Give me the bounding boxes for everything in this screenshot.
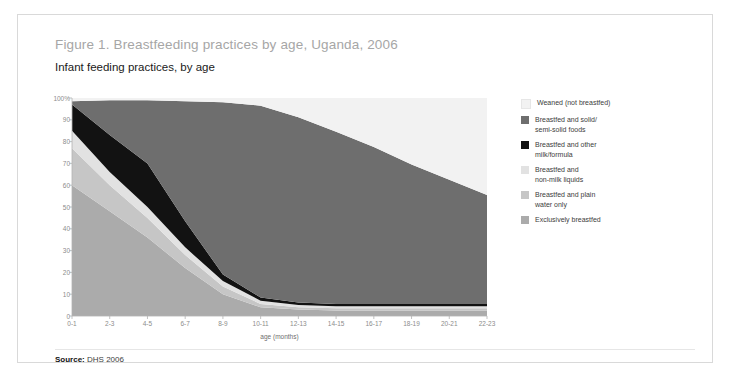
legend-item[interactable]: Breastfed and other milk/formula xyxy=(521,140,691,159)
y-axis-tick: 50 xyxy=(63,204,70,211)
y-axis-tick: 90 xyxy=(63,116,70,123)
y-axis-tick: 10 xyxy=(63,291,70,298)
x-axis-labels: 0-12-34-56-78-910-1112-1314-1516-1718-19… xyxy=(72,320,487,332)
figure-subtitle: Infant feeding practices, by age xyxy=(55,61,215,73)
legend-swatch-icon xyxy=(521,216,529,224)
y-axis-tick: 70 xyxy=(63,160,70,167)
chart-legend: Weaned (not breastfed)Breastfed and soli… xyxy=(521,98,691,231)
x-axis-tick: 12-13 xyxy=(290,320,307,327)
legend-swatch-icon xyxy=(521,99,531,109)
legend-item[interactable]: Weaned (not breastfed) xyxy=(521,98,691,109)
legend-swatch-icon xyxy=(521,191,529,199)
legend-swatch-icon xyxy=(521,166,529,174)
y-axis-tick: 20 xyxy=(63,269,70,276)
x-axis-tick: 2-3 xyxy=(105,320,114,327)
legend-label: Breastfed and solid/ semi-solid foods xyxy=(535,115,597,134)
x-axis-tick: 4-5 xyxy=(143,320,152,327)
legend-swatch-icon xyxy=(521,116,529,124)
x-axis-tick: 16-17 xyxy=(366,320,383,327)
legend-item[interactable]: Breastfed and plain water only xyxy=(521,190,691,209)
source-note: Source: DHS 2006 xyxy=(55,355,124,364)
x-axis-title: age (months) xyxy=(72,333,487,340)
page-title: Figure 1. Breastfeeding practices by age… xyxy=(55,37,398,52)
legend-label: Exclusively breastfed xyxy=(535,215,601,225)
figure-page: Figure 1. Breastfeeding practices by age… xyxy=(0,0,732,379)
source-label: Source: xyxy=(55,355,85,364)
y-axis-tick: 40 xyxy=(63,225,70,232)
chart-plot-area xyxy=(72,98,487,316)
legend-label: Breastfed and plain water only xyxy=(535,190,595,209)
stacked-area-chart xyxy=(72,98,487,316)
x-axis-tick: 20-21 xyxy=(441,320,458,327)
legend-label: Weaned (not breastfed) xyxy=(537,98,610,108)
y-axis-tick: 80 xyxy=(63,138,70,145)
figure-card: Figure 1. Breastfeeding practices by age… xyxy=(17,14,713,363)
y-axis-tick: 30 xyxy=(63,247,70,254)
legend-item[interactable]: Breastfed and solid/ semi-solid foods xyxy=(521,115,691,134)
legend-item[interactable]: Exclusively breastfed xyxy=(521,215,691,225)
source-value: DHS 2006 xyxy=(87,355,124,364)
x-axis-tick: 14-15 xyxy=(328,320,345,327)
x-axis-tick: 8-9 xyxy=(218,320,227,327)
x-axis-tick: 22-23 xyxy=(479,320,496,327)
legend-item[interactable]: Breastfed and non-milk liquids xyxy=(521,165,691,184)
y-axis-tick: 100% xyxy=(53,95,70,102)
y-axis-labels: 0102030405060708090100% xyxy=(40,91,70,323)
x-axis-tick: 10-11 xyxy=(253,320,269,327)
legend-label: Breastfed and non-milk liquids xyxy=(535,165,583,184)
y-axis-tick: 60 xyxy=(63,182,70,189)
source-divider xyxy=(55,349,695,350)
legend-label: Breastfed and other milk/formula xyxy=(535,140,597,159)
x-axis-tick: 0-1 xyxy=(67,320,76,327)
x-axis-tick: 18-19 xyxy=(403,320,420,327)
legend-swatch-icon xyxy=(521,141,529,149)
x-axis-tick: 6-7 xyxy=(180,320,189,327)
